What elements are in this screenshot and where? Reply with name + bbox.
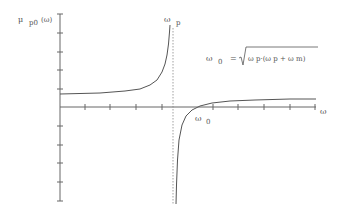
x-axis xyxy=(60,104,316,110)
svg-text:p: p xyxy=(176,19,181,27)
curve-left-branch xyxy=(60,25,170,94)
svg-text:ω: ω xyxy=(206,54,213,63)
svg-text:0: 0 xyxy=(218,58,222,66)
svg-text:=: = xyxy=(230,54,237,63)
svg-text:p0: p0 xyxy=(29,19,38,27)
svg-text:ω: ω xyxy=(164,15,171,24)
zero-label: ω 0 xyxy=(195,114,210,126)
svg-text:ω: ω xyxy=(195,114,202,123)
pole-label: ω p xyxy=(164,15,181,27)
permeability-plot: μ p0 (ω) ω p ω 0 ω ω 0 = ω p·(ω p + ω m) xyxy=(0,0,344,211)
svg-text:ω p·(ω p + ω m): ω p·(ω p + ω m) xyxy=(248,55,306,63)
x-axis-label: ω xyxy=(320,107,327,116)
y-axis-label: μ p0 (ω) xyxy=(18,15,52,27)
svg-text:μ: μ xyxy=(18,15,23,24)
resonance-formula: ω 0 = ω p·(ω p + ω m) xyxy=(206,47,318,66)
svg-text:(ω): (ω) xyxy=(41,16,52,24)
svg-text:0: 0 xyxy=(206,118,210,126)
